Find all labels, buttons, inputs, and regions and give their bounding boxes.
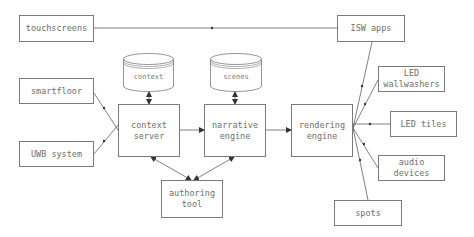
node-led-tiles: LED tiles bbox=[390, 111, 457, 137]
node-rendering-engine: rendering engine bbox=[291, 104, 353, 157]
node-smartfloor: smartfloor bbox=[19, 78, 94, 104]
node-context-server: context server bbox=[118, 104, 180, 157]
node-authoring-tool: authoring tool bbox=[161, 180, 223, 218]
node-led-wallwashers: LED wallwashers bbox=[378, 66, 445, 92]
edge-smartfloor-context bbox=[94, 93, 118, 130]
context-database: context bbox=[123, 53, 174, 92]
database-label: scenes bbox=[210, 73, 262, 81]
database-label: context bbox=[123, 73, 174, 81]
node-isw-apps: ISW apps bbox=[337, 15, 405, 42]
node-narrative-engine: narrative engine bbox=[204, 104, 266, 157]
edge-uwb-context bbox=[94, 125, 118, 154]
node-audio-devices: audio devices bbox=[378, 155, 445, 181]
scenes-database: scenes bbox=[210, 53, 262, 92]
node-uwb-system: UWB system bbox=[19, 141, 94, 167]
node-touchscreens: touchscreens bbox=[19, 15, 94, 42]
node-spots: spots bbox=[334, 200, 402, 226]
